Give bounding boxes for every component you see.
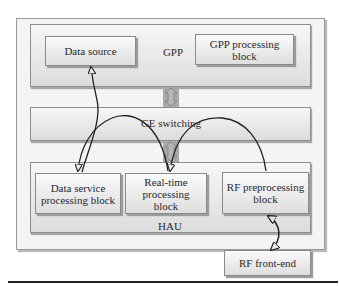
gpp-processing-label: GPP processing block [199, 38, 290, 62]
data-service-processing-block: Data service processing block [35, 173, 121, 214]
gpp-processing-block: GPP processing block [195, 34, 294, 65]
gpp-label: GPP [155, 46, 191, 58]
rf-front-end-block: RF front-end [224, 250, 311, 276]
rf-preprocessing-label: RF preprocessing block [226, 181, 305, 205]
ge-hau-connector-icon [163, 141, 179, 162]
rf-front-end-label: RF front-end [239, 257, 296, 269]
data-source-block: Data source [45, 36, 136, 66]
data-service-processing-label: Data service processing block [39, 182, 117, 206]
bottom-rule [8, 281, 338, 283]
hau-label: HAU [150, 220, 190, 232]
gpp-ge-connector-icon [163, 87, 179, 107]
ge-switching-label: GE switching [130, 117, 212, 129]
data-source-label: Data source [64, 45, 116, 57]
rf-preprocessing-block: RF preprocessing block [222, 172, 309, 214]
real-time-processing-block: Real-time processing block [125, 173, 207, 214]
real-time-processing-label: Real-time processing block [129, 176, 203, 212]
